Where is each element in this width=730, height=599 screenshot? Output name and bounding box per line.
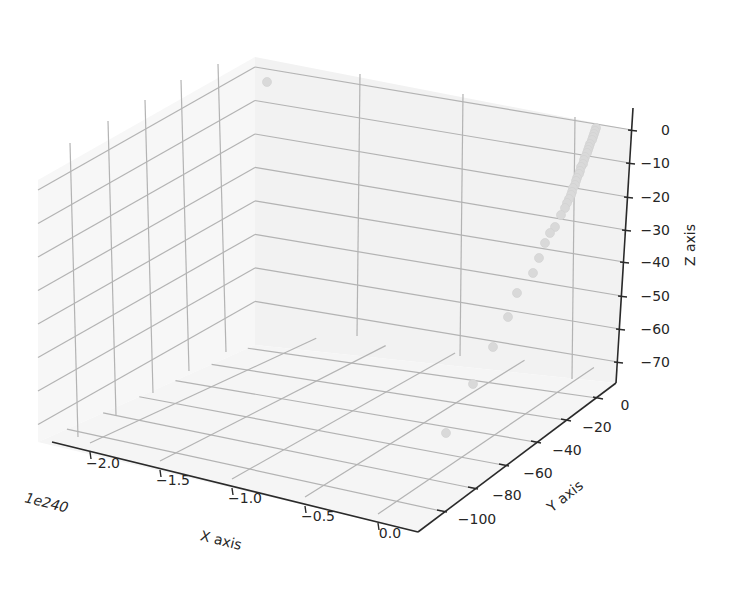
x-tick-label: 0.0 (379, 525, 401, 541)
pane-back (255, 57, 632, 383)
scatter-point (541, 239, 550, 248)
scatter-point (504, 313, 513, 322)
z-tick-label: −30 (640, 222, 670, 238)
scatter-point (513, 289, 522, 298)
z-axis-label: Z axis (682, 224, 698, 266)
scatter-point (557, 211, 566, 220)
scatter-point (442, 429, 451, 438)
y-tick-label: −60 (523, 465, 553, 481)
y-axis-label: Y axis (543, 477, 586, 516)
scatter-point (546, 229, 555, 238)
z-tick-label: −60 (640, 321, 670, 337)
y-tick-label: −40 (552, 442, 582, 458)
x-tick-label: −0.5 (301, 508, 335, 524)
scatter-point (263, 78, 272, 87)
z-tick-label: 0 (661, 122, 670, 138)
x-axis-label: X axis (199, 527, 244, 553)
y-tick-label: 0 (621, 397, 630, 413)
scatter-point (489, 343, 498, 352)
z-tick-label: −70 (640, 354, 670, 370)
x-tick-label: −1.5 (156, 472, 190, 488)
scatter-point (469, 380, 478, 389)
z-tick-label: −40 (640, 254, 670, 270)
z-tick-label: −10 (640, 155, 670, 171)
x-tick-label: −2.0 (86, 455, 120, 471)
scatter-point (535, 254, 544, 263)
y-tick-label: −20 (582, 419, 612, 435)
scatter-point (529, 269, 538, 278)
x-tick-label: −1.0 (228, 490, 262, 506)
x-offset-text: 1e240 (23, 489, 70, 515)
z-tick-label: −50 (640, 288, 670, 304)
y-tick-label: −80 (492, 487, 522, 503)
y-tick-label: −100 (458, 511, 496, 527)
3d-scatter-figure: −2.0−1.5−1.0−0.50.00−20−40−60−80−1000−10… (0, 0, 730, 599)
z-tick-label: −20 (640, 189, 670, 205)
